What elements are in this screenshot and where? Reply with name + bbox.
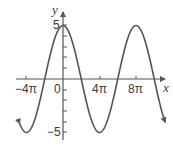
- x-axis-label: x: [162, 80, 169, 95]
- cosine-graph: y x 5 −5 −4π 0 4π 8π: [0, 0, 173, 145]
- x-tick-label-neg4pi: −4π: [15, 82, 37, 96]
- x-tick-label-0: 0: [54, 82, 61, 96]
- x-tick-label-8pi: 8π: [128, 82, 143, 96]
- y-tick-label-5: 5: [53, 18, 60, 32]
- y-tick-label-neg5: −5: [47, 125, 61, 139]
- y-axis-label: y: [50, 2, 58, 17]
- x-tick-label-4pi: 4π: [92, 82, 107, 96]
